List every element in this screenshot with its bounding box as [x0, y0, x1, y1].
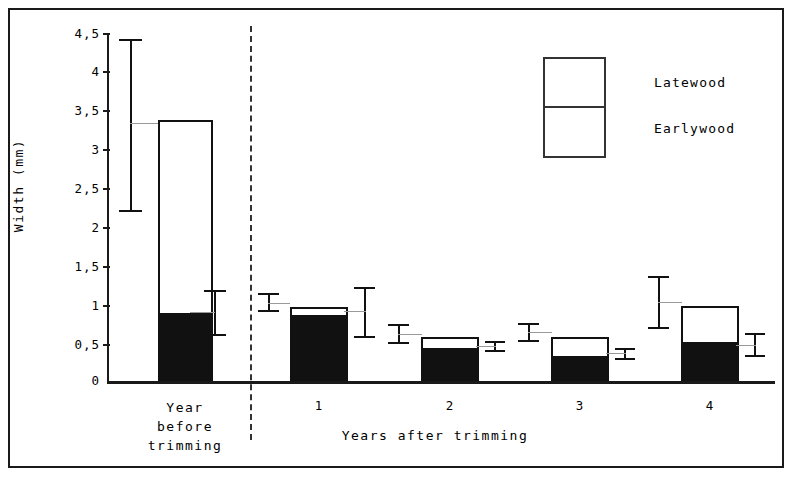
error-bar-total-year-before-trimming: [130, 39, 132, 212]
y-tick-label-4: 4: [48, 64, 100, 79]
error-cap-high-ew-4: [745, 333, 765, 335]
y-tick-mark-4: [103, 71, 110, 73]
error-cap-low-total-1: [258, 310, 279, 312]
error-mean-ew-4: [736, 345, 756, 346]
bar-year-before-trimming: [158, 120, 213, 381]
y-tick-mark-1: [103, 305, 110, 307]
error-cap-low-total-3: [518, 340, 539, 342]
error-mean-total-3: [528, 332, 552, 333]
bar-segment-earlywood: [683, 342, 737, 379]
x-category-1: 1: [289, 398, 349, 413]
y-tick-mark-3: [103, 149, 110, 151]
error-mean-total-0: [130, 123, 158, 124]
error-bar-earlywood-year-1: [364, 287, 366, 338]
y-tick-label-3: 3: [48, 142, 100, 157]
chart-root: Width (mm) 4,5 4 3,5 3 2,5 2 1,5 1 0,5 0: [0, 0, 794, 477]
pre-post-trimming-divider: [250, 26, 252, 440]
error-cap-high-total-4: [648, 276, 669, 278]
error-cap-low-ew-1: [354, 336, 375, 338]
error-cap-high-ew-3: [615, 348, 635, 350]
y-tick-mark-3-5: [103, 110, 110, 112]
error-bar-total-year-1: [268, 293, 270, 311]
bar-year-1: [290, 307, 348, 381]
y-tick-mark-2-5: [103, 188, 110, 190]
x-axis-line: [107, 381, 775, 384]
y-tick-label-4-5: 4,5: [48, 26, 100, 41]
bar-year-4: [681, 306, 739, 381]
y-axis-line: [107, 33, 109, 383]
y-tick-label-0: 0: [48, 373, 100, 388]
error-cap-high-total-2: [388, 324, 409, 326]
error-cap-low-total-2: [388, 342, 409, 344]
plot-area: Width (mm) 4,5 4 3,5 3 2,5 2 1,5 1 0,5 0: [0, 0, 794, 477]
y-tick-label-1: 1: [48, 298, 100, 313]
error-cap-high-total-3: [518, 323, 539, 325]
error-cap-low-total-0: [119, 210, 142, 212]
y-tick-mark-1-5: [103, 266, 110, 268]
y-axis-title: Width (mm): [11, 106, 26, 266]
x-category-3: 3: [550, 398, 610, 413]
error-mean-total-4: [658, 302, 682, 303]
x-category-2: 2: [420, 398, 480, 413]
error-mean-ew-0: [190, 312, 215, 313]
x-category-4: 4: [680, 398, 740, 413]
error-cap-low-ew-2: [485, 350, 505, 352]
y-tick-label-3-5: 3,5: [48, 103, 100, 118]
bar-segment-earlywood: [292, 315, 346, 379]
error-mean-total-2: [398, 334, 422, 335]
legend-swatch-box: [543, 57, 606, 158]
y-tick-mark-4-5: [103, 33, 110, 35]
error-mean-ew-1: [344, 311, 366, 312]
x-category-year-before-trimming: Year before trimming: [115, 398, 255, 455]
error-cap-low-ew-3: [615, 358, 635, 360]
error-mean-total-1: [268, 303, 290, 304]
bar-segment-earlywood: [553, 356, 607, 379]
y-tick-label-0-5: 0,5: [48, 337, 100, 352]
error-cap-low-total-4: [648, 327, 669, 329]
y-tick-label-1-5: 1,5: [48, 259, 100, 274]
legend-label-earlywood: Earlywood: [654, 121, 735, 136]
error-cap-high-total-1: [258, 293, 279, 295]
error-cap-high-ew-1: [354, 287, 375, 289]
bar-segment-earlywood: [423, 348, 477, 379]
legend-label-latewood: Latewood: [654, 75, 726, 90]
y-tick-mark-2: [103, 227, 110, 229]
y-tick-label-2: 2: [48, 220, 100, 235]
bar-segment-earlywood: [160, 313, 211, 379]
error-mean-ew-3: [606, 353, 626, 354]
error-mean-ew-2: [476, 346, 496, 347]
x-axis-title: Years after trimming: [265, 428, 605, 443]
error-cap-low-ew-0: [204, 334, 226, 336]
bar-year-2: [421, 337, 479, 381]
error-cap-high-total-0: [119, 39, 142, 41]
y-tick-mark-0-5: [103, 344, 110, 346]
bar-year-3: [551, 337, 609, 381]
error-cap-high-ew-0: [204, 290, 226, 292]
legend-swatch-divider: [545, 106, 604, 108]
error-cap-high-ew-2: [485, 341, 505, 343]
error-cap-low-ew-4: [745, 355, 765, 357]
y-tick-label-2-5: 2,5: [48, 181, 100, 196]
